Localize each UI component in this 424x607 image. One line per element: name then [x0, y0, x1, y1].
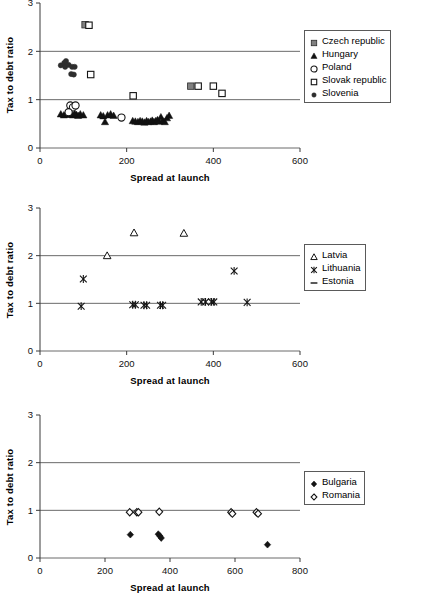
legend-marker-open-triangle-icon: [308, 249, 320, 261]
legend-panel-2: LatviaLithuaniaEstonia: [304, 244, 366, 291]
marker-open-diamond: [311, 493, 317, 499]
series-bulgaria: [127, 531, 271, 548]
marker-open-circle: [65, 109, 72, 116]
legend-marker-open-diamond-icon: [308, 489, 320, 501]
x-tick-label-0: 0: [37, 155, 42, 166]
marker-asterisk: [231, 267, 238, 275]
legend-item-slovenia: Slovenia: [308, 86, 386, 99]
marker-open-square: [88, 71, 94, 77]
series-latvia: [103, 229, 187, 259]
marker-open-square: [311, 79, 316, 84]
x-tick-label-800: 800: [292, 565, 308, 576]
marker-asterisk: [198, 298, 205, 306]
y-tick-label-2: 2: [28, 457, 33, 468]
legend-item-hungary: Hungary: [308, 47, 386, 60]
x-tick-label-200: 200: [119, 155, 135, 166]
legend-item-bulgaria: Bulgaria: [308, 475, 360, 488]
marker-asterisk: [311, 266, 317, 273]
series-czech-republic: [82, 22, 194, 90]
marker-filled-square: [311, 40, 316, 45]
x-axis-title: Spread at launch: [130, 582, 210, 593]
x-axis-title: Spread at launch: [130, 172, 210, 183]
legend-marker-filled-square-icon: [308, 35, 320, 47]
marker-open-triangle: [130, 229, 138, 236]
marker-filled-square: [188, 83, 194, 89]
marker-open-square: [86, 22, 92, 28]
marker-open-diamond: [156, 508, 163, 515]
x-tick-label-200: 200: [97, 565, 113, 576]
y-tick-label-2: 2: [28, 46, 33, 57]
legend-item-lithuania: Lithuania: [308, 261, 361, 274]
x-tick-label-400: 400: [162, 565, 178, 576]
chart-panel-3: 01230200400600800Spread at launchTax to …: [0, 395, 424, 607]
marker-open-circle: [311, 65, 317, 71]
legend-item-latvia: Latvia: [308, 248, 361, 261]
y-tick-label-0: 0: [28, 345, 33, 356]
legend-item-czech-republic: Czech republic: [308, 34, 386, 47]
y-tick-label-3: 3: [28, 0, 33, 8]
y-axis-title: Tax to debt ratio: [4, 242, 15, 319]
y-tick-label-3: 3: [28, 202, 33, 213]
legend-label: Romania: [322, 488, 360, 501]
marker-asterisk: [78, 302, 85, 310]
y-tick-label-1: 1: [28, 298, 33, 309]
y-axis-title: Tax to debt ratio: [4, 37, 15, 114]
legend-label: Estonia: [322, 274, 354, 287]
legend-label: Bulgaria: [322, 475, 357, 488]
scatter-plot-2: 01230200400600Spread at launchTax to deb…: [0, 190, 424, 395]
x-tick-label-600: 600: [292, 358, 308, 369]
marker-open-square: [130, 93, 136, 99]
legend-item-poland: Poland: [308, 60, 386, 73]
legend-label: Slovenia: [322, 86, 358, 99]
marker-open-diamond: [126, 509, 133, 516]
series-slovenia: [58, 58, 77, 77]
chart-panel-1: 01230200400600Spread at launchTax to deb…: [0, 0, 424, 190]
legend-label: Lithuania: [322, 261, 361, 274]
marker-open-triangle: [311, 253, 317, 259]
marker-filled-circle: [312, 92, 316, 96]
x-tick-label-600: 600: [292, 155, 308, 166]
legend-label: Poland: [322, 60, 352, 73]
marker-filled-diamond: [264, 541, 270, 548]
legend-marker-dash-icon: [308, 275, 320, 287]
figure-root: 01230200400600Spread at launchTax to deb…: [0, 0, 424, 607]
x-tick-label-400: 400: [205, 155, 221, 166]
legend-marker-filled-diamond-icon: [308, 476, 320, 488]
legend-panel-3: BulgariaRomania: [304, 471, 365, 505]
marker-asterisk: [202, 298, 209, 306]
x-axis-title: Spread at launch: [130, 375, 210, 386]
legend-marker-filled-triangle-icon: [308, 48, 320, 60]
marker-filled-triangle: [311, 52, 317, 57]
x-tick-label-0: 0: [37, 358, 42, 369]
legend-item-romania: Romania: [308, 488, 360, 501]
x-tick-label-400: 400: [205, 358, 221, 369]
y-tick-label-1: 1: [28, 94, 33, 105]
marker-open-square: [210, 83, 216, 89]
marker-filled-circle: [72, 64, 77, 69]
marker-open-circle: [118, 114, 125, 121]
legend-item-estonia: Estonia: [308, 274, 361, 287]
y-axis-title: Tax to debt ratio: [4, 449, 15, 526]
x-tick-label-200: 200: [119, 358, 135, 369]
x-tick-label-0: 0: [37, 565, 42, 576]
marker-open-square: [195, 83, 201, 89]
series-hungary: [57, 110, 173, 126]
chart-panel-2: 01230200400600Spread at launchTax to deb…: [0, 190, 424, 395]
legend-item-slovak-republic: Slovak republic: [308, 73, 386, 86]
y-tick-label-3: 3: [28, 409, 33, 420]
series-slovak-republic: [86, 22, 225, 99]
series-romania: [126, 508, 261, 517]
legend-panel-1: Czech republicHungaryPolandSlovak republ…: [304, 30, 391, 103]
y-tick-label-0: 0: [28, 142, 33, 153]
x-tick-label-600: 600: [227, 565, 243, 576]
legend-marker-asterisk-icon: [308, 262, 320, 274]
marker-asterisk: [244, 298, 251, 306]
y-tick-label-2: 2: [28, 250, 33, 261]
marker-filled-diamond: [127, 531, 133, 538]
y-tick-label-0: 0: [28, 552, 33, 563]
legend-label: Hungary: [322, 47, 358, 60]
marker-open-circle: [72, 102, 79, 109]
y-tick-label-1: 1: [28, 505, 33, 516]
legend-label: Slovak republic: [322, 73, 386, 86]
marker-filled-triangle: [101, 118, 108, 124]
